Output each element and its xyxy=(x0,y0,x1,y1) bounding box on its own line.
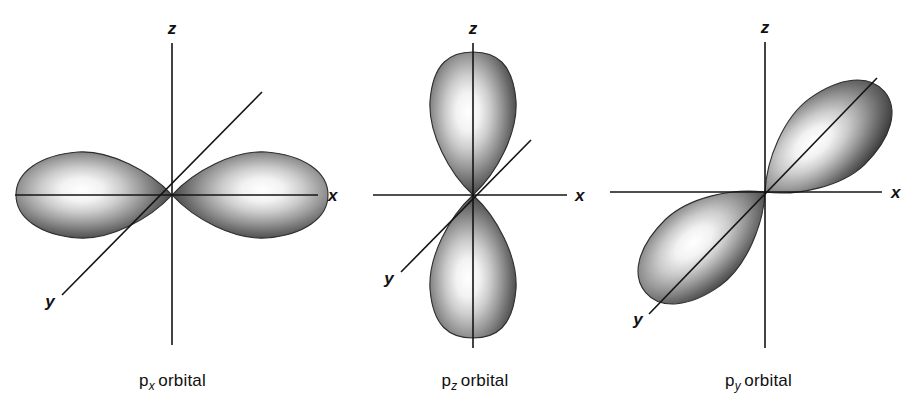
pz-caption-symbol: p xyxy=(441,371,451,390)
py-diagram: z x y xyxy=(605,0,912,401)
pz-caption: pzorbital xyxy=(345,371,605,391)
px-axis-label-y: y xyxy=(44,292,56,311)
pz-axis-label-y: y xyxy=(383,269,395,288)
py-caption-symbol: p xyxy=(725,371,735,390)
py-caption-subscript: y xyxy=(735,379,742,393)
py-axis-y-line xyxy=(649,78,877,314)
py-axis-label-x: x xyxy=(890,183,902,202)
px-caption: pxorbital xyxy=(0,371,345,391)
px-axis-label-x: x xyxy=(327,186,339,205)
pz-caption-word: orbital xyxy=(461,371,509,390)
pz-axis-label-z: z xyxy=(468,19,478,38)
px-caption-subscript: x xyxy=(149,379,156,393)
px-axis-label-z: z xyxy=(167,19,177,38)
pz-caption-subscript: z xyxy=(451,379,458,393)
pz-axis-label-x: x xyxy=(574,186,586,205)
orbital-panel-px: z x y pxorbital xyxy=(0,0,345,401)
py-caption-word: orbital xyxy=(744,371,792,390)
pz-diagram: z x y xyxy=(345,0,605,401)
px-caption-word: orbital xyxy=(158,371,206,390)
p-orbital-figure: z x y pxorbital xyxy=(0,0,912,401)
py-caption: pyorbital xyxy=(605,371,912,391)
px-diagram: z x y xyxy=(0,0,345,401)
orbital-panel-py: z x y pyorbital xyxy=(605,0,912,401)
py-axis-label-z: z xyxy=(760,18,770,37)
orbital-panel-pz: z x y pzorbital xyxy=(345,0,605,401)
px-caption-symbol: p xyxy=(139,371,149,390)
py-axis-label-y: y xyxy=(632,310,644,329)
